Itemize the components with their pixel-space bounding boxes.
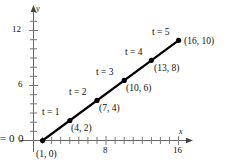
y-tick-label-0: 0 bbox=[18, 133, 24, 144]
annotation-t3-coord: (10, 6) bbox=[126, 84, 151, 94]
y-tick-label-6: 6 bbox=[18, 80, 23, 89]
annotation-t5-coord: (16, 10) bbox=[184, 37, 214, 47]
annotation-t4-param: t = 4 bbox=[125, 48, 143, 58]
data-line bbox=[43, 40, 179, 140]
data-point-marker bbox=[176, 38, 181, 43]
x-tick-label-8: 8 bbox=[103, 146, 108, 155]
y-tick-label-12: 12 bbox=[12, 25, 21, 34]
annotation-t3-param: t = 3 bbox=[96, 68, 114, 78]
annotation-t1-param: t = 1 bbox=[42, 108, 60, 118]
annotation-t4-coord: (13, 8) bbox=[154, 64, 179, 74]
x-axis-label: x bbox=[179, 128, 183, 136]
annotation-t2-coord: (7, 4) bbox=[99, 104, 120, 114]
annotation-t0-param: t= 0 bbox=[0, 133, 15, 144]
annotation-t2-param: t = 2 bbox=[69, 88, 87, 98]
annotation-t0-equals-zero: = 0 bbox=[0, 132, 14, 144]
x-tick-label-16: 16 bbox=[173, 146, 182, 155]
chart-canvas bbox=[0, 0, 231, 168]
y-axis-label: y bbox=[36, 5, 40, 13]
parametric-line-chart: y x 12 6 0 8 16 t= 0 (1, 0) t = 1 (4, 2)… bbox=[0, 0, 231, 168]
annotation-t1-coord: (4, 2) bbox=[71, 124, 92, 134]
data-point-marker bbox=[40, 138, 45, 143]
annotation-t0-coord: (1, 0) bbox=[36, 150, 57, 160]
x-axis-arrowhead bbox=[186, 138, 193, 144]
annotation-t5-param: t = 5 bbox=[152, 28, 170, 38]
